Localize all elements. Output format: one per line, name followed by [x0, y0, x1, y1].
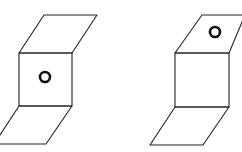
square-panel — [175, 53, 229, 107]
folded-net-diagram — [0, 0, 242, 152]
bottom-panel — [150, 107, 229, 145]
square-panel — [19, 53, 72, 106]
circle-marker — [210, 27, 220, 37]
top-panel — [19, 15, 97, 53]
bottom-panel — [0, 106, 72, 144]
figure-right — [150, 15, 242, 145]
top-panel — [175, 15, 242, 53]
circle-marker — [40, 72, 50, 82]
figure-left — [0, 15, 97, 144]
